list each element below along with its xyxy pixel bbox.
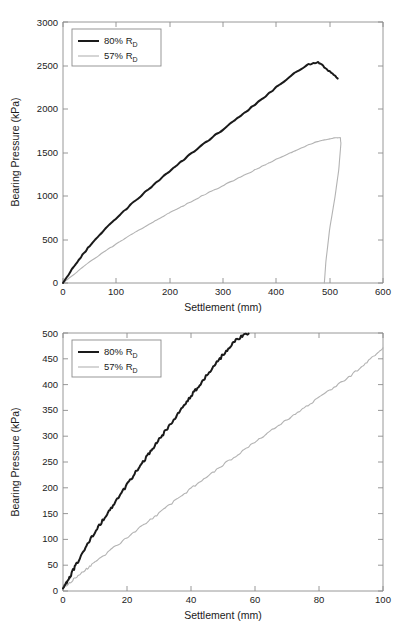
- bottom-xtick-4: 80: [314, 594, 325, 605]
- bottom-ytick-3: 150: [42, 508, 58, 519]
- chart-panel-top: 0 100 200 300 400 500 600 0 500 1000 150…: [0, 0, 410, 319]
- bottom-xtick-5: 100: [375, 594, 391, 605]
- bottom-ytick-6: 300: [42, 430, 58, 441]
- chart-panel-bottom: 0 20 40 60 80 100 0 50 100 150 200 250 3…: [0, 319, 410, 638]
- bottom-series-57: [63, 348, 383, 588]
- top-ytick-1: 500: [42, 234, 58, 245]
- bottom-xaxis-title: Settlement (mm): [184, 609, 262, 621]
- bottom-ytick-1: 50: [47, 559, 58, 570]
- top-xaxis-title: Settlement (mm): [184, 301, 262, 313]
- top-ytick-2: 1000: [37, 190, 58, 201]
- bottom-x-ticklabels: 0 20 40 60 80 100: [60, 594, 391, 605]
- top-ytick-0: 0: [53, 277, 58, 288]
- top-y-ticklabels: 0 500 1000 1500 2000 2500 3000: [37, 17, 58, 288]
- top-ytick-5: 2500: [37, 60, 58, 71]
- bottom-legend[interactable]: 80% RD 57% RD: [72, 340, 161, 377]
- top-series-group: [63, 62, 341, 283]
- top-xtick-1: 100: [108, 286, 124, 297]
- top-series-57: [63, 138, 341, 283]
- bottom-ytick-7: 350: [42, 404, 58, 415]
- top-xtick-5: 500: [322, 286, 338, 297]
- bottom-yaxis-title: Bearing Pressure (kPa): [9, 407, 21, 516]
- top-legend[interactable]: 80% RD 57% RD: [72, 29, 161, 66]
- bottom-xtick-1: 20: [122, 594, 133, 605]
- top-series-80: [63, 62, 338, 283]
- top-xtick-6: 600: [375, 286, 391, 297]
- figure-page: 0 100 200 300 400 500 600 0 500 1000 150…: [0, 0, 410, 638]
- top-ytick-3: 1500: [37, 147, 58, 158]
- top-yaxis-title: Bearing Pressure (kPa): [9, 97, 21, 206]
- bottom-ytick-4: 200: [42, 482, 58, 493]
- top-ytick-4: 2000: [37, 103, 58, 114]
- bottom-chart-svg: 0 20 40 60 80 100 0 50 100 150 200 250 3…: [0, 319, 410, 638]
- bottom-xtick-0: 0: [60, 594, 65, 605]
- top-xtick-2: 200: [162, 286, 178, 297]
- top-ytick-6: 3000: [37, 17, 58, 28]
- bottom-ytick-5: 250: [42, 456, 58, 467]
- top-xtick-0: 0: [60, 286, 65, 297]
- bottom-ytick-10: 500: [42, 328, 58, 339]
- top-xtick-3: 300: [215, 286, 231, 297]
- bottom-ytick-8: 400: [42, 379, 58, 390]
- bottom-ytick-9: 450: [42, 353, 58, 364]
- top-xtick-4: 400: [268, 286, 284, 297]
- top-x-ticklabels: 0 100 200 300 400 500 600: [60, 286, 391, 297]
- bottom-xtick-3: 60: [250, 594, 261, 605]
- bottom-ytick-0: 0: [53, 585, 58, 596]
- bottom-ytick-2: 100: [42, 533, 58, 544]
- bottom-xtick-2: 40: [186, 594, 197, 605]
- top-chart-svg: 0 100 200 300 400 500 600 0 500 1000 150…: [0, 0, 410, 319]
- bottom-y-ticklabels: 0 50 100 150 200 250 300 350 400 450 500: [42, 328, 58, 596]
